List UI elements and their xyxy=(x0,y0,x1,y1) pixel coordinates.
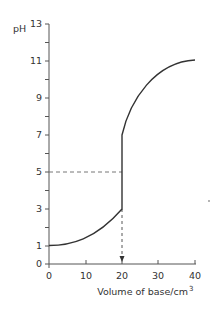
y-tick-label: 13 xyxy=(30,18,42,29)
x-tick-label: 30 xyxy=(152,270,164,281)
x-tick-label: 10 xyxy=(80,270,92,281)
y-tick-label: 1 xyxy=(36,240,42,251)
y-tick-label: 3 xyxy=(36,203,42,214)
y-tick-label: 7 xyxy=(36,129,42,140)
x-tick-label: 40 xyxy=(189,270,201,281)
titration-chart: 13 11 9 7 5 3 1 0 0 10 20 30 40 pH Volum… xyxy=(0,0,220,312)
x-tick-label: 0 xyxy=(46,270,52,281)
y-tick-label: 11 xyxy=(30,55,42,66)
stray-dot xyxy=(208,200,210,202)
y-ticks xyxy=(45,24,49,264)
y-tick-label: 9 xyxy=(36,92,42,103)
y-tick-label: 0 xyxy=(36,258,42,269)
x-tick-label: 20 xyxy=(116,270,128,281)
x-axis-title-superscript: 3 xyxy=(189,285,193,293)
arrow-down-icon xyxy=(120,256,125,262)
y-axis-title: pH xyxy=(13,23,26,34)
x-axis-title: Volume of base/cm xyxy=(97,286,188,297)
y-tick-label: 5 xyxy=(36,166,42,177)
